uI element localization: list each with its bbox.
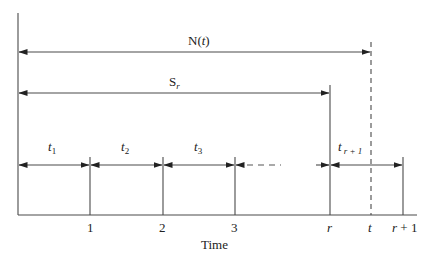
s-r-label: Sr: [169, 74, 180, 91]
interval-label-t2: t2: [121, 139, 129, 156]
tick-label-1: 1: [87, 220, 94, 235]
interval-label-t-r-plus-1: tr + 1: [338, 139, 362, 156]
tick-label-r: r: [327, 220, 333, 235]
n-of-t-arrow: N(t): [19, 33, 370, 52]
renewal-process-diagram: N(t) Sr t1 t2 t3 tr + 1 1 2 3 r t r + 1 …: [0, 0, 431, 260]
tick-label-2: 2: [159, 220, 166, 235]
interval-label-t3: t3: [194, 139, 203, 156]
tick-label-3: 3: [231, 220, 238, 235]
s-r-arrow: Sr: [19, 74, 329, 93]
interval-label-t1: t1: [48, 139, 56, 156]
tick-label-r-plus-1: r + 1: [392, 220, 417, 235]
n-of-t-label: N(t): [188, 33, 210, 48]
diagram-canvas: N(t) Sr t1 t2 t3 tr + 1 1 2 3 r t r + 1 …: [0, 0, 431, 260]
tick-label-t: t: [368, 220, 372, 235]
x-axis-label: Time: [201, 237, 228, 252]
